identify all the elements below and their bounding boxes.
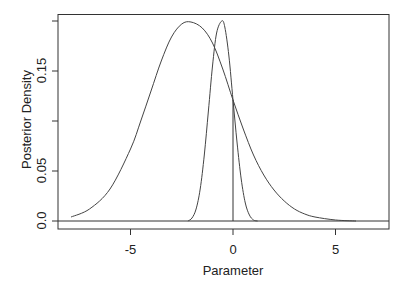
broad-posterior-curve [71,22,356,221]
y-axis-label: Posterior Density [19,60,34,180]
x-tick-label: 0 [218,242,248,257]
y-tick-label: 0.05 [34,151,49,191]
x-axis-label: Parameter [0,263,401,278]
x-axis-ticks [131,229,336,235]
y-tick-label: 0.15 [34,51,49,91]
x-tick-label: -5 [116,242,146,257]
x-tick-label: 5 [321,242,351,257]
y-axis-ticks [52,21,58,221]
plot-frame [58,15,389,230]
narrow-posterior-curve [188,21,258,221]
y-tick-label: 0.0 [34,201,49,241]
